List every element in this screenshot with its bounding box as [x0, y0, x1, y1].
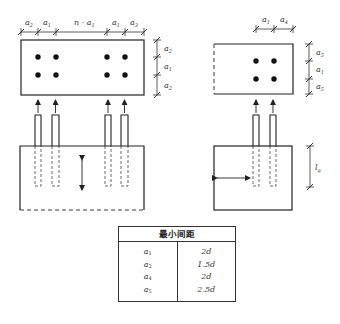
table-cell-value: 1.5d — [178, 259, 236, 272]
dim-label-a3: a3 — [130, 18, 138, 28]
table-cell-symbol: a4 — [119, 271, 177, 284]
embedded-rods-hidden — [35, 146, 128, 186]
anchor-rods — [35, 115, 128, 146]
top-right-horizontal-dimension — [253, 25, 296, 33]
symbol-column: a1 a2 a4 a5 — [119, 242, 178, 301]
top-left-horizontal-dimension — [18, 28, 147, 36]
dim-label-v-a1: a1 — [164, 62, 172, 72]
edge-plate-outline — [214, 44, 293, 94]
edge-anchor-bolt-holes — [253, 58, 276, 81]
table-cell-symbol: a2 — [119, 259, 177, 272]
bottom-left-elevation-view — [20, 100, 144, 210]
table-header: 最小间距 — [119, 227, 235, 242]
dim-label-right-v-a1: a1 — [316, 65, 324, 75]
dim-label-right-a5-top: a5 — [316, 48, 324, 58]
dim-label-a1: a1 — [43, 18, 51, 28]
top-left-plan-view: a2 a1 n · a1 a1 a3 a2 a1 a2 — [18, 18, 172, 98]
embedment-length-dimension — [306, 143, 314, 190]
dim-label-a2: a2 — [25, 18, 33, 28]
base-plate-outline — [21, 40, 144, 95]
dim-label-a1-right: a1 — [112, 18, 120, 28]
edge-tension-arrows — [256, 100, 273, 113]
dim-label-lg: lg — [315, 163, 321, 174]
dim-label-right-a1: a1 — [262, 15, 270, 25]
dim-label-right-a5-bottom: a5 — [316, 82, 324, 92]
dim-label-right-a4: a4 — [280, 15, 288, 25]
dim-label-v-a2-bottom: a2 — [164, 81, 172, 91]
table-cell-value: 2.5d — [178, 284, 236, 297]
anchor-bolt-holes — [35, 54, 127, 77]
table-cell-symbol: a5 — [119, 284, 177, 297]
table-cell-value: 2d — [178, 271, 236, 284]
dim-label-n-a1: n · a1 — [74, 18, 95, 28]
value-column: 2d 1.5d 2d 2.5d — [178, 242, 236, 301]
bottom-right-elevation-view: lg — [214, 100, 321, 210]
edge-anchor-rods — [253, 115, 276, 146]
top-right-vertical-dimension — [305, 41, 313, 97]
top-left-vertical-dimension — [153, 37, 161, 98]
dim-label-v-a2-top: a2 — [164, 44, 172, 54]
tension-arrows — [38, 100, 125, 113]
minimum-spacing-table: 最小间距 a1 a2 a4 a5 2d 1.5d 2d 2.5d — [118, 226, 236, 302]
table-cell-value: 2d — [178, 246, 236, 259]
table-cell-symbol: a1 — [119, 246, 177, 259]
top-right-plan-view: a1 a4 a5 a1 a5 — [214, 15, 324, 97]
edge-embedded-rods-hidden — [253, 146, 276, 186]
